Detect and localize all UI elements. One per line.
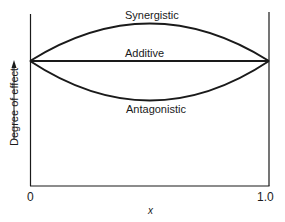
x-tick-0: 0 <box>27 191 34 203</box>
antagonistic-label: Antagonistic <box>126 104 186 115</box>
synergistic-label: Synergistic <box>125 10 179 21</box>
arrow-up-icon <box>12 60 17 68</box>
x-tick-1: 1.0 <box>257 191 274 203</box>
additive-label: Additive <box>125 48 164 59</box>
x-axis-label: x <box>148 206 153 216</box>
antagonistic-curve <box>30 61 269 101</box>
y-axis-label: Degree of effect <box>9 68 20 146</box>
